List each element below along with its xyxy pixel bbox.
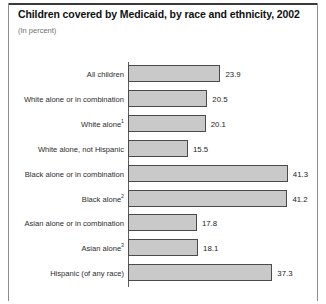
bar-value-label: 37.3: [277, 269, 292, 278]
bar-row: All children23.9: [0, 63, 326, 85]
bar-value-label: 17.8: [202, 219, 217, 228]
bar-value-label: 18.1: [203, 244, 218, 253]
bar: [128, 264, 272, 281]
bar-value-label: 15.5: [193, 144, 208, 153]
bar-category-label: All children: [87, 70, 124, 79]
bar-category-label: White alone, not Hispanic: [38, 144, 124, 153]
bar: [128, 65, 220, 82]
bar-category-label: Black alone or in combination: [25, 169, 124, 178]
bar: [128, 239, 198, 256]
bar-value-label: 20.5: [212, 94, 227, 103]
bar-category-label: White alone1: [81, 119, 124, 128]
bar-value-label: 23.9: [225, 70, 240, 79]
bar: [128, 190, 287, 207]
bar-row: Asian alone or in combination17.8: [0, 212, 326, 234]
bar-value-label: 41.2: [292, 194, 307, 203]
footnote-marker: 3: [121, 242, 124, 248]
footnote-marker: 2: [121, 192, 124, 198]
bar-row: Asian alone318.1: [0, 237, 326, 259]
bar-row: White alone, not Hispanic15.5: [0, 138, 326, 160]
bar-category-label: Black alone2: [82, 194, 124, 203]
bar-category-label: Asian alone or in combination: [24, 219, 124, 228]
bar: [128, 90, 207, 107]
bar-category-label: White alone or in combination: [24, 94, 124, 103]
bar-value-label: 20.1: [211, 119, 226, 128]
bar-row: Hispanic (of any race)37.3: [0, 262, 326, 284]
bar-row: White alone or in combination20.5: [0, 88, 326, 110]
bar: [128, 115, 206, 132]
bar-chart-plot: All children23.9White alone or in combin…: [0, 0, 326, 304]
bar-category-label: Hispanic (of any race): [50, 269, 124, 278]
bar: [128, 140, 188, 157]
bar-row: Black alone or in combination41.3: [0, 163, 326, 185]
footnote-marker: 1: [121, 118, 124, 124]
bar-value-label: 41.3: [293, 169, 308, 178]
bar-row: Black alone241.2: [0, 188, 326, 210]
bar-category-label: Asian alone3: [81, 244, 124, 253]
bar-row: White alone120.1: [0, 113, 326, 135]
bar: [128, 214, 197, 231]
chart-page: Children covered by Medicaid, by race an…: [0, 0, 326, 304]
bar: [128, 165, 288, 182]
